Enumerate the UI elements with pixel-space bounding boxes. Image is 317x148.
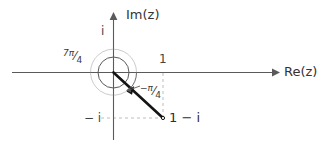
fraction-denominator: 4 — [77, 55, 83, 65]
tick-label-i: i — [101, 25, 104, 37]
angle-arc-negative-pi-over-4 — [130, 73, 137, 89]
real-axis-label: Re(z) — [284, 65, 317, 78]
angle-label-minus-pi-over-4: −π⁄4 — [140, 82, 161, 100]
fraction-denominator: 4 — [155, 90, 161, 100]
fraction-numerator: 7π — [63, 48, 74, 58]
real-axis — [12, 69, 280, 77]
fraction-numerator: −π — [140, 83, 153, 93]
point-label-1-minus-i: 1 − i — [169, 111, 200, 124]
tick-label-one: 1 — [159, 53, 167, 65]
angle-label-7pi-over-4: 7π⁄4 — [63, 47, 82, 65]
real-axis-arrowhead — [272, 69, 280, 77]
point-marker-1-minus-i — [161, 116, 164, 119]
figure-canvas — [0, 0, 317, 148]
imaginary-axis-label: Im(z) — [126, 8, 159, 21]
tick-label-minus-i: − i — [84, 112, 101, 124]
complex-plane-figure: Im(z) Re(z) i 1 − i 7π⁄4 −π⁄4 1 − i — [0, 0, 317, 148]
fraction-minus-pi-over-4: −π⁄4 — [140, 84, 161, 100]
fraction-7pi-over-4: 7π⁄4 — [63, 49, 82, 65]
imaginary-axis-arrowhead — [110, 12, 118, 20]
